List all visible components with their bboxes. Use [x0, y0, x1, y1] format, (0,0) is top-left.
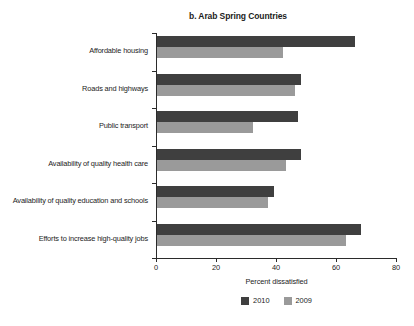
y-axis-tick — [152, 71, 156, 72]
x-axis-tick-label-80: 80 — [392, 263, 400, 272]
bar-group-roads-and-highways — [157, 71, 396, 109]
y-axis-tick — [152, 33, 156, 34]
y-axis-labels: Affordable housing Roads and highways Pu… — [0, 33, 152, 258]
chart-title: b. Arab Spring Countries — [0, 11, 414, 21]
y-axis-label-education-and-schools: Availability of quality education and sc… — [13, 196, 148, 205]
y-axis-tick — [152, 183, 156, 184]
x-axis-tick — [336, 258, 337, 262]
legend-swatch-icon-2009 — [284, 297, 292, 305]
y-axis-tick — [152, 146, 156, 147]
y-axis-label-public-transport: Public transport — [99, 121, 148, 130]
chart-legend: 2010 2009 — [156, 296, 397, 305]
x-axis-tick-label-60: 60 — [332, 263, 340, 272]
source-note-cropped — [10, 316, 200, 320]
x-axis-title: Percent dissatisfied — [156, 277, 397, 286]
bar-2009-high-quality-jobs — [157, 235, 346, 246]
x-axis-tick — [156, 258, 157, 262]
bar-group-high-quality-jobs — [157, 221, 396, 259]
bar-group-health-care — [157, 146, 396, 184]
bar-2010-health-care — [157, 149, 301, 160]
bar-group-affordable-housing — [157, 33, 396, 71]
legend-swatch-icon-2010 — [241, 297, 249, 305]
x-axis-tick-label-20: 20 — [212, 263, 220, 272]
x-axis-tick — [396, 258, 397, 262]
y-axis-label-high-quality-jobs: Efforts to increase high-quality jobs — [39, 234, 148, 243]
x-axis-tick-label-40: 40 — [272, 263, 280, 272]
bar-2009-public-transport — [157, 122, 253, 133]
x-axis-tick-label-0: 0 — [154, 263, 158, 272]
bar-group-education-and-schools — [157, 183, 396, 221]
bar-2009-affordable-housing — [157, 47, 283, 58]
legend-item-2009: 2009 — [284, 296, 312, 305]
bar-group-public-transport — [157, 108, 396, 146]
y-axis-tick — [152, 108, 156, 109]
bar-2010-roads-and-highways — [157, 74, 301, 85]
legend-label-2009: 2009 — [296, 296, 312, 305]
bar-2010-high-quality-jobs — [157, 224, 361, 235]
bar-2010-public-transport — [157, 111, 298, 122]
y-axis-label-health-care: Availability of quality health care — [48, 159, 148, 168]
x-axis-ticks: 0 20 40 60 80 — [156, 258, 397, 276]
y-axis-label-affordable-housing: Affordable housing — [89, 46, 148, 55]
legend-label-2010: 2010 — [253, 296, 269, 305]
x-axis-tick — [276, 258, 277, 262]
y-axis-label-roads-and-highways: Roads and highways — [82, 84, 148, 93]
y-axis-tick — [152, 221, 156, 222]
bar-2009-health-care — [157, 160, 286, 171]
bar-2010-education-and-schools — [157, 186, 274, 197]
legend-item-2010: 2010 — [241, 296, 269, 305]
bar-2009-roads-and-highways — [157, 85, 295, 96]
bar-2010-affordable-housing — [157, 36, 355, 47]
plot-area — [156, 33, 396, 258]
bar-2009-education-and-schools — [157, 197, 268, 208]
bar-chart-figure: b. Arab Spring Countries Affordable hous… — [0, 0, 414, 326]
x-axis-tick — [216, 258, 217, 262]
